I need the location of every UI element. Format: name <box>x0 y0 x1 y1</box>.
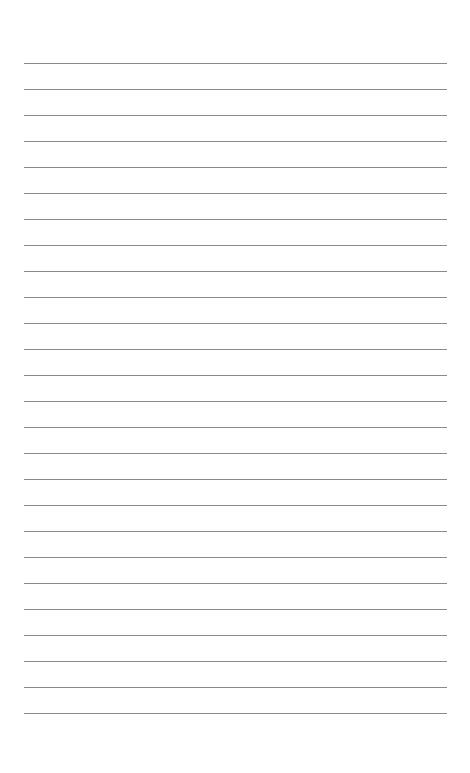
ruled-line <box>24 505 447 506</box>
ruled-line <box>24 167 447 168</box>
ruled-line <box>24 219 447 220</box>
ruled-line <box>24 193 447 194</box>
ruled-line <box>24 661 447 662</box>
ruled-line <box>24 349 447 350</box>
ruled-line <box>24 531 447 532</box>
ruled-line <box>24 479 447 480</box>
ruled-line <box>24 427 447 428</box>
ruled-line <box>24 63 447 64</box>
ruled-line <box>24 115 447 116</box>
ruled-line <box>24 89 447 90</box>
ruled-line <box>24 635 447 636</box>
ruled-line <box>24 141 447 142</box>
ruled-line <box>24 583 447 584</box>
ruled-line <box>24 557 447 558</box>
ruled-line <box>24 453 447 454</box>
ruled-line <box>24 713 447 714</box>
ruled-line <box>24 401 447 402</box>
ruled-line <box>24 375 447 376</box>
ruled-line <box>24 245 447 246</box>
ruled-line <box>24 271 447 272</box>
ruled-line <box>24 609 447 610</box>
lined-paper-page <box>0 0 470 773</box>
ruled-line <box>24 687 447 688</box>
ruled-line <box>24 297 447 298</box>
ruled-line <box>24 323 447 324</box>
